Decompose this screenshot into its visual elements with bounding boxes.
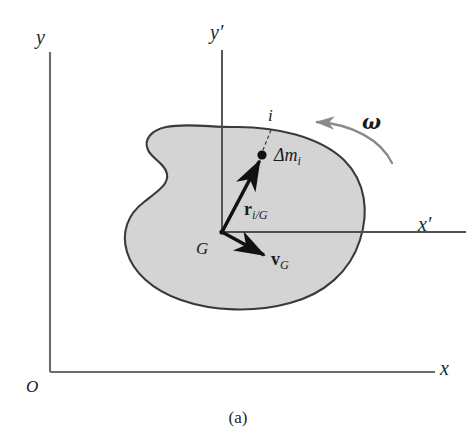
position-vector-subscript: i/G	[252, 208, 268, 222]
y-prime-letter: y	[210, 21, 219, 43]
position-vector-label: ri/G	[244, 200, 268, 221]
y-axis-label: y	[36, 27, 45, 47]
mass-element-subscript: i	[298, 154, 301, 168]
center-of-mass-label: G	[196, 240, 208, 257]
diagram-canvas	[0, 0, 476, 435]
angular-velocity-label: ω	[362, 112, 381, 132]
mass-element-dot	[257, 150, 266, 159]
velocity-subscript: G	[280, 258, 289, 272]
mass-element-symbol: Δm	[274, 145, 298, 165]
velocity-symbol: v	[271, 249, 280, 269]
figure-panel: y x O y′ x′ G i Δmi ri/G vG ω (a)	[0, 0, 476, 435]
y-prime-mark: ′	[219, 21, 223, 43]
x-prime-axis-label: x′	[418, 214, 431, 234]
origin-label: O	[26, 378, 38, 395]
particle-index-label: i	[268, 107, 273, 124]
y-prime-axis-label: y′	[210, 22, 223, 42]
velocity-vector-label: vG	[271, 250, 289, 271]
x-axis-label: x	[440, 358, 449, 378]
x-prime-letter: x	[418, 213, 427, 235]
x-prime-mark: ′	[427, 213, 431, 235]
mass-element-label: Δmi	[274, 146, 301, 167]
figure-caption: (a)	[0, 408, 476, 428]
position-vector-symbol: r	[244, 199, 252, 219]
mass-center-dot	[219, 229, 224, 234]
